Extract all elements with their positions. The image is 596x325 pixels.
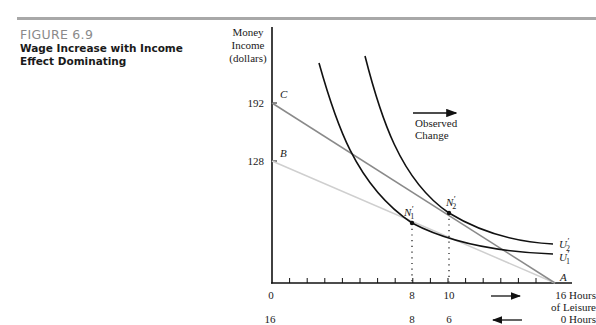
chart: Money Income (dollars) 192 128 C B N′1 [0, 0, 596, 325]
point-a-label: A [559, 271, 567, 283]
point-c-label: C [280, 88, 288, 100]
y-axis-label-3: (dollars) [229, 52, 267, 65]
point-n1 [410, 221, 414, 225]
curve-u1-label: U′1 [559, 249, 570, 266]
x-label-16-hours: 16 Hours [555, 289, 596, 301]
x-label-10: 10 [444, 289, 456, 301]
y-axis-label-1: Money [232, 26, 264, 38]
budget-line-ac [272, 103, 555, 283]
point-n2-label: N′2 [445, 194, 456, 211]
x-label-of-leisure: of Leisure [551, 301, 596, 313]
y-tick-label-128: 128 [248, 155, 265, 167]
change-label: Change [415, 129, 449, 141]
work-label-8: 8 [409, 313, 415, 325]
indifference-curve-u2 [365, 56, 553, 244]
observed-label: Observed [415, 117, 458, 129]
point-b-label: B [280, 147, 287, 159]
work-label-0-hours: 0 Hours [561, 313, 596, 325]
y-tick-label-192: 192 [248, 97, 265, 109]
indifference-curve-u1 [319, 63, 553, 254]
x-label-8: 8 [409, 289, 415, 301]
x-label-0: 0 [268, 289, 274, 301]
point-n2 [447, 211, 451, 215]
work-label-16: 16 [265, 313, 277, 325]
y-axis-label-2: Income [232, 39, 265, 51]
work-label-6: 6 [446, 313, 452, 325]
